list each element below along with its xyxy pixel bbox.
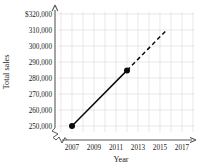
x-tick-label: 2007 [65,144,80,152]
y-tick-label: $320,000 [25,11,52,19]
y-tick-label: 250,000 [29,123,53,131]
y-axis-tick-labels: $320,000 310,000 300,000 290,000 280,000… [25,11,52,131]
x-tick-label: 2015 [153,144,168,152]
x-axis-title: Year [113,155,128,164]
x-axis-tick-labels: 2007 2009 2011 2013 2015 2017 [65,144,190,152]
line-chart: $320,000 310,000 300,000 290,000 280,000… [0,0,199,166]
y-tick-label: 290,000 [29,59,53,67]
y-tick-label: 260,000 [29,107,53,115]
y-tick-label: 270,000 [29,91,53,99]
x-tick-label: 2011 [109,144,124,152]
series-line-solid [72,70,127,126]
x-tick-label: 2009 [87,144,102,152]
chart-canvas: $320,000 310,000 300,000 290,000 280,000… [0,0,199,166]
y-axis-title: Total sales [2,55,11,90]
x-tick-label: 2013 [131,144,146,152]
data-point-marker [124,67,130,73]
y-tick-label: 300,000 [29,43,53,51]
y-tick-label: 280,000 [29,75,53,83]
x-tick-label: 2017 [175,144,190,152]
data-point-marker [69,123,75,129]
y-tick-label: 310,000 [29,27,53,35]
